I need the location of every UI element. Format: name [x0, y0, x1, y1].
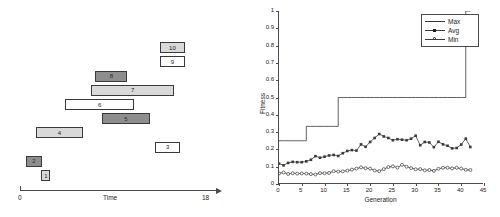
legend-item-min: Min	[425, 35, 475, 44]
gantt-bar-3[interactable]: 3	[155, 142, 180, 153]
series-marker-avg	[451, 147, 454, 150]
series-marker-min	[279, 172, 281, 175]
series-marker-min	[378, 170, 381, 173]
series-marker-min	[428, 168, 431, 171]
gantt-axis-title: Time	[103, 194, 117, 201]
y-tick	[276, 63, 279, 64]
y-tick	[276, 115, 279, 116]
series-marker-min	[360, 166, 363, 169]
gantt-bar-label: 7	[131, 87, 134, 93]
series-marker-avg	[346, 150, 349, 153]
fitness-line-chart: Fitness 00.10.20.30.40.50.60.70.80.91 05…	[250, 0, 500, 217]
series-marker-avg	[419, 144, 422, 147]
legend-circle-marker-icon-min	[425, 35, 445, 44]
legend-label-max: Max	[448, 18, 460, 25]
x-axis-label: Generation	[331, 196, 431, 203]
gantt-bar-label: 10	[169, 45, 176, 51]
series-marker-avg	[378, 133, 381, 136]
series-marker-avg	[414, 134, 417, 137]
gantt-chart: 12345678910 0 18 Time	[0, 0, 250, 217]
gantt-bar-label: 5	[124, 116, 127, 122]
y-tick-label: 0.3	[258, 128, 274, 134]
series-marker-min	[401, 163, 404, 166]
series-marker-min	[423, 169, 426, 172]
series-marker-avg	[401, 138, 404, 141]
legend-item-max: Max	[425, 17, 475, 26]
series-marker-min	[391, 165, 394, 168]
y-tick-label: 0.7	[258, 59, 274, 65]
gantt-bar-10[interactable]: 10	[160, 42, 186, 53]
series-marker-avg	[464, 137, 467, 140]
y-tick-label: 0.1	[258, 163, 274, 169]
x-tick-label: 15	[338, 187, 354, 193]
x-tick	[461, 183, 462, 186]
legend-label-min: Min	[448, 36, 458, 43]
y-tick-label: 0.5	[258, 94, 274, 100]
series-marker-avg	[396, 138, 399, 141]
gantt-bar-8[interactable]: 8	[95, 71, 127, 82]
gantt-bar-4[interactable]: 4	[36, 127, 83, 138]
series-marker-min	[328, 171, 331, 174]
gantt-bar-5[interactable]: 5	[102, 113, 151, 124]
series-marker-min	[410, 167, 413, 170]
series-marker-avg	[392, 139, 395, 142]
series-marker-avg	[319, 156, 322, 159]
series-marker-min	[432, 169, 435, 172]
y-tick	[276, 28, 279, 29]
series-marker-min	[387, 166, 390, 169]
series-marker-avg	[291, 161, 294, 164]
gantt-axis-start-label: 0	[18, 194, 22, 201]
gantt-bar-7[interactable]: 7	[91, 85, 174, 96]
gantt-bar-6[interactable]: 6	[65, 99, 133, 110]
y-tick	[276, 11, 279, 12]
series-marker-min	[382, 168, 385, 171]
y-tick-label: 0.4	[258, 111, 274, 117]
y-tick	[276, 80, 279, 81]
x-tick	[279, 183, 280, 186]
x-tick	[347, 183, 348, 186]
gantt-bar-label: 1	[44, 173, 47, 179]
series-marker-min	[332, 170, 335, 173]
y-tick-label: 0.2	[258, 145, 274, 151]
gantt-bar-label: 4	[58, 130, 61, 136]
x-tick	[370, 183, 371, 186]
series-marker-min	[373, 169, 376, 172]
gantt-axis-arrow-icon	[216, 188, 222, 194]
series-marker-min	[460, 167, 463, 170]
series-marker-min	[309, 173, 312, 176]
gantt-axis-end-label: 18	[202, 194, 209, 201]
series-marker-avg	[460, 143, 463, 146]
series-marker-avg	[364, 146, 367, 149]
series-marker-avg	[282, 164, 285, 167]
series-marker-avg	[310, 158, 313, 161]
series-marker-min	[446, 166, 449, 169]
x-tick-label: 30	[407, 187, 423, 193]
series-marker-min	[314, 173, 317, 176]
gantt-bar-9[interactable]: 9	[160, 56, 186, 67]
gantt-bar-1[interactable]: 1	[41, 170, 50, 181]
series-marker-avg	[455, 147, 458, 150]
series-marker-min	[437, 167, 440, 170]
series-marker-min	[287, 172, 290, 175]
series-marker-min	[355, 167, 358, 170]
series-marker-avg	[423, 141, 426, 144]
x-tick-label: 5	[293, 187, 309, 193]
series-marker-avg	[337, 155, 340, 158]
series-marker-avg	[332, 154, 335, 157]
x-tick-label: 10	[316, 187, 332, 193]
y-tick	[276, 46, 279, 47]
series-marker-avg	[373, 137, 376, 140]
series-marker-min	[442, 166, 445, 169]
series-marker-avg	[382, 135, 385, 138]
series-marker-min	[341, 170, 344, 173]
chart-legend: Max Avg Min	[421, 14, 479, 47]
legend-square-marker-icon-avg	[425, 26, 445, 35]
series-marker-min	[300, 172, 303, 175]
x-tick-label: 20	[361, 187, 377, 193]
series-marker-min	[369, 167, 372, 170]
gantt-bar-2[interactable]: 2	[26, 156, 43, 167]
y-tick	[276, 149, 279, 150]
series-marker-avg	[341, 152, 344, 155]
series-marker-avg	[410, 137, 413, 140]
y-tick-label: 1	[258, 7, 274, 13]
